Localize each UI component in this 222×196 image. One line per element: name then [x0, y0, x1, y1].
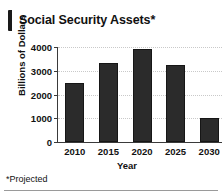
y-axis-tick	[54, 47, 58, 48]
bar-2010	[65, 83, 84, 142]
y-axis-tick-label: 1000	[31, 113, 52, 124]
y-axis-title: Billions of Dollars	[16, 8, 27, 104]
gridline	[58, 47, 222, 48]
page-title: Social Security Assets*	[19, 14, 155, 27]
y-axis-tick	[54, 95, 58, 96]
footnote: *Projected	[6, 174, 48, 184]
bar-2015	[99, 63, 118, 142]
x-axis-tick-label: 2015	[98, 146, 119, 157]
chart-figure: Social Security Assets* Billions of Doll…	[0, 0, 222, 196]
plot-area: 0100020003000400020102015202020252030	[57, 47, 222, 143]
chart-title-row: Social Security Assets*	[8, 9, 155, 31]
y-axis-tick	[54, 142, 58, 143]
x-axis-tick-label: 2020	[131, 146, 152, 157]
bottom-divider	[4, 190, 218, 191]
y-axis-tick-label: 0	[47, 137, 52, 148]
y-axis-tick	[54, 118, 58, 119]
bar-2030	[200, 118, 219, 142]
y-axis-tick	[54, 71, 58, 72]
x-axis-title: Year	[57, 160, 197, 171]
y-axis-tick-label: 4000	[31, 42, 52, 53]
y-axis-tick-label: 2000	[31, 89, 52, 100]
bar-2020	[133, 49, 152, 142]
bar-2025	[166, 65, 185, 142]
y-axis-tick-label: 3000	[31, 65, 52, 76]
title-accent-bar	[8, 10, 12, 31]
x-axis-tick-label: 2010	[64, 146, 85, 157]
x-axis-tick-label: 2025	[165, 146, 186, 157]
x-axis-tick-label: 2030	[199, 146, 220, 157]
